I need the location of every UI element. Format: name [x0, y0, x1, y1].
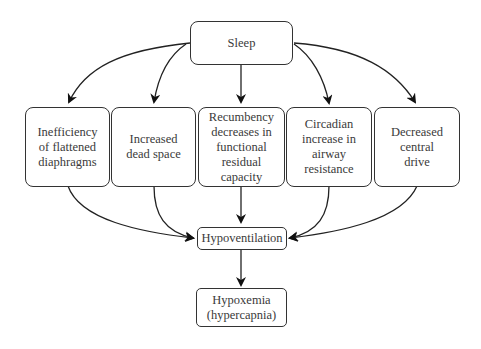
node-hypoxemia: Hypoxemia (hypercapnia) [196, 288, 287, 327]
node-decreased-central-drive: Decreased central drive [374, 107, 460, 187]
arrow-sleep-to-deadspace [154, 44, 186, 102]
node-increased-dead-space: Increased dead space [111, 107, 196, 187]
arrow-circadian-to-hypoventilation [290, 186, 329, 238]
arrow-sleep-to-centraldrive [294, 43, 415, 102]
node-recumbency-frc: Recumbency decreases in functional resid… [198, 107, 285, 187]
arrow-sleep-to-diaphragms [69, 43, 190, 102]
node-label: Increased dead space [126, 132, 180, 162]
node-inefficiency-diaphragms: Inefficiency of flattened diaphragms [25, 107, 110, 187]
node-hypoventilation-label: Hypoventilation [201, 231, 282, 246]
node-label: Inefficiency of flattened diaphragms [37, 125, 97, 170]
node-sleep-label: Sleep [228, 36, 256, 51]
node-sleep: Sleep [190, 21, 293, 65]
node-label: Decreased central drive [391, 125, 443, 170]
arrow-sleep-to-circadian [294, 44, 329, 103]
node-hypoxemia-label: Hypoxemia (hypercapnia) [207, 293, 276, 323]
node-hypoventilation: Hypoventilation [197, 227, 287, 250]
node-label: Recumbency decreases in functional resid… [209, 110, 274, 185]
node-label: Circadian increase in airway resistance [302, 117, 356, 177]
node-circadian-airway-resistance: Circadian increase in airway resistance [286, 107, 372, 187]
arrow-deadspace-to-hypoventilation [154, 186, 193, 238]
